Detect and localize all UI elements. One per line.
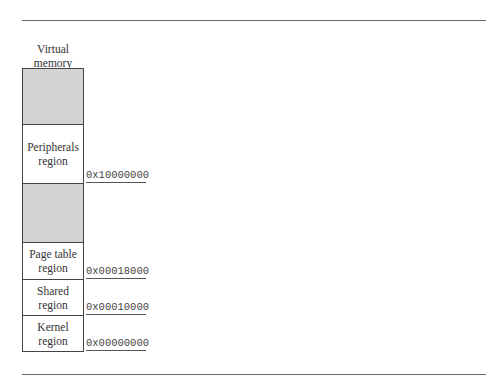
address-shared-base: 0x00010000 bbox=[86, 301, 146, 315]
address-peripherals-base: 0x10000000 bbox=[86, 169, 146, 183]
peripherals-region: Peripherals region bbox=[22, 124, 84, 184]
unmapped-region-lower bbox=[22, 183, 84, 243]
title-line-1: Virtual bbox=[22, 42, 84, 56]
page-table-region: Page table region bbox=[22, 242, 84, 280]
shared-region: Shared region bbox=[22, 279, 84, 316]
region-label-line: region bbox=[29, 261, 77, 275]
region-label-line: region bbox=[37, 298, 69, 312]
unmapped-region-upper bbox=[22, 68, 84, 125]
region-label-line: Page table bbox=[29, 247, 77, 261]
address-page-table-base: 0x00018000 bbox=[86, 265, 146, 279]
kernel-region: Kernel region bbox=[22, 315, 84, 352]
diagram-title: Virtual memory bbox=[22, 42, 84, 70]
bottom-rule bbox=[22, 374, 486, 375]
top-rule bbox=[22, 20, 486, 21]
region-label-line: Kernel bbox=[37, 320, 68, 334]
region-label-line: region bbox=[27, 154, 79, 168]
region-label-line: Peripherals bbox=[27, 140, 79, 154]
address-kernel-base: 0x00000000 bbox=[86, 337, 146, 351]
region-label-line: Shared bbox=[37, 284, 69, 298]
region-label-line: region bbox=[37, 334, 68, 348]
